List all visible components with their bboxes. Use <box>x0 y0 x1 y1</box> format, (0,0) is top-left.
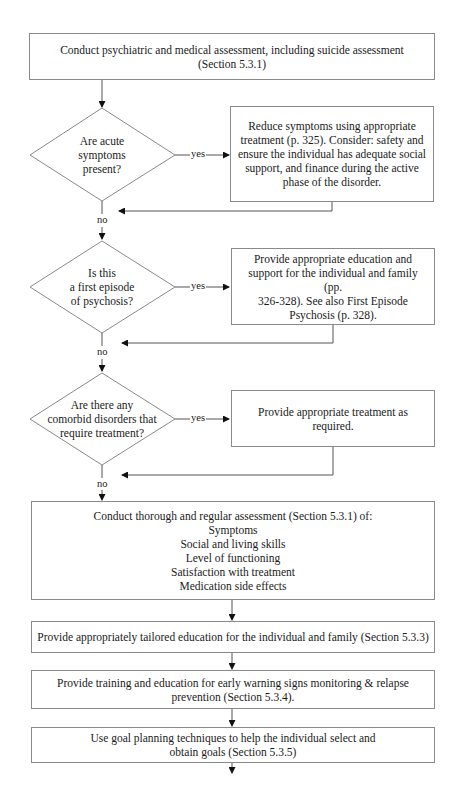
step-3-line-2: obtain goals (Section 5.3.5) <box>170 745 297 759</box>
decision-2-question: Is this a first episode of psychosis? <box>47 264 157 310</box>
assessment-item-social-skills: Social and living skills <box>180 537 285 551</box>
decision-1-action-box: Reduce symptoms using appropriate treatm… <box>230 106 434 202</box>
decision-1-no-label: no <box>96 214 109 226</box>
decision-1-line-3: present? <box>83 162 121 176</box>
decision-2-line-1: Is this <box>88 266 116 280</box>
step-1-line-1: Provide appropriately tailored education… <box>37 630 429 644</box>
decision-2-line-3: of psychosis? <box>71 294 133 308</box>
start-assessment-box: Conduct psychiatric and medical assessme… <box>29 33 435 80</box>
action-2-line-4: Psychosis (p. 328). <box>289 308 377 322</box>
decision-2-yes-label: yes <box>190 280 206 292</box>
assessment-item-functioning: Level of functioning <box>186 551 281 565</box>
step-relapse-prevention-box: Provide training and education for early… <box>31 670 435 709</box>
decision-1-yes-label: yes <box>190 148 206 160</box>
action-2-line-2: support for the individual and family (p… <box>238 266 428 294</box>
decision-3-line-1: Are there any <box>71 398 134 412</box>
action-1-line-4: support, and finance during the active <box>245 161 419 175</box>
action-3-line-1: Provide appropriate treatment as <box>258 405 408 419</box>
step-education-box: Provide appropriately tailored education… <box>31 621 435 653</box>
decision-2-no-label: no <box>96 346 109 358</box>
start-line-2: (Section 5.3.1) <box>198 57 266 71</box>
regular-assessment-box: Conduct thorough and regular assessment … <box>31 501 435 600</box>
step-2-line-1: Provide training and education for early… <box>57 676 409 690</box>
action-1-line-3: ensure the individual has adequate socia… <box>238 147 426 161</box>
decision-2-line-2: a first episode <box>70 280 135 294</box>
assessment-item-satisfaction: Satisfaction with treatment <box>171 565 295 579</box>
return-arrow-1 <box>119 201 332 211</box>
assessment-item-symptoms: Symptoms <box>208 523 257 537</box>
return-arrow-3 <box>122 446 333 475</box>
decision-3-action-box: Provide appropriate treatment as require… <box>231 390 435 447</box>
decision-1-line-1: Are acute <box>80 134 124 148</box>
start-line-1: Conduct psychiatric and medical assessme… <box>60 43 404 57</box>
action-3-line-2: required. <box>312 419 353 433</box>
action-1-line-2: treatment (p. 325). Consider: safety and <box>241 133 424 147</box>
step-3-line-1: Use goal planning techniques to help the… <box>90 731 375 745</box>
assessment-item-side-effects: Medication side effects <box>179 579 286 593</box>
step-goal-planning-box: Use goal planning techniques to help the… <box>31 727 435 763</box>
decision-3-line-3: require treatment? <box>60 426 144 440</box>
decision-3-question: Are there any comorbid disorders that re… <box>37 396 167 442</box>
action-2-line-1: Provide appropriate education and <box>254 252 412 266</box>
return-arrow-2 <box>122 324 333 343</box>
decision-3-yes-label: yes <box>190 412 206 424</box>
step-2-line-2: prevention (Section 5.3.4). <box>172 690 295 704</box>
assessment-heading: Conduct thorough and regular assessment … <box>94 509 373 523</box>
decision-1-question: Are acute symptoms present? <box>52 132 152 178</box>
decision-3-no-label: no <box>96 478 109 490</box>
action-2-line-3: 326-328). See also First Episode <box>258 294 408 308</box>
decision-1-line-2: symptoms <box>78 148 125 162</box>
action-1-line-5: phase of the disorder. <box>283 175 381 189</box>
decision-3-line-2: comorbid disorders that <box>47 412 156 426</box>
action-1-line-1: Reduce symptoms using appropriate <box>248 119 416 133</box>
decision-2-action-box: Provide appropriate education and suppor… <box>231 248 435 325</box>
